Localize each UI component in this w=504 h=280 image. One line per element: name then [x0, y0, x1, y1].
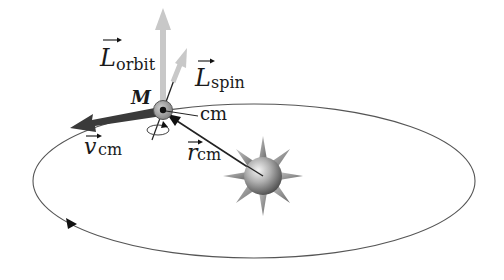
l-orbit-subscript: orbit: [116, 55, 156, 74]
label-cm: cm: [200, 103, 227, 124]
l-orbit-symbol: L: [99, 44, 116, 72]
label-mass: M: [130, 87, 152, 108]
l-spin-symbol: L: [194, 64, 211, 92]
mass-body: [154, 101, 173, 120]
r-cm-subscript: cm: [197, 145, 221, 164]
label-r-cm: r cm: [187, 140, 221, 166]
l-spin-subscript: spin: [211, 73, 245, 92]
orbit-direction-arrow-icon: [66, 218, 77, 229]
orbit-diagram: L orbit L spin M cm v cm r cm: [0, 0, 504, 280]
label-l-orbit: L orbit: [99, 38, 156, 75]
v-cm-subscript: cm: [98, 140, 122, 159]
v-cm-symbol: v: [84, 134, 97, 159]
label-v-cm: v cm: [84, 134, 122, 160]
star-icon: [223, 136, 303, 216]
label-l-spin: L spin: [194, 59, 245, 93]
